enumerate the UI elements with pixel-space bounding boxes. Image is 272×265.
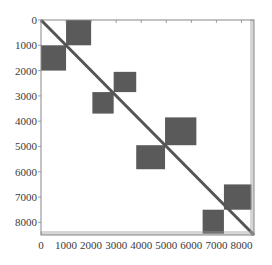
x-tick-label: 8000 bbox=[230, 239, 253, 251]
sparsity-plot: 010002000300040005000600070008000 010002… bbox=[0, 0, 272, 265]
x-tick-label: 1000 bbox=[55, 239, 78, 251]
block-5 bbox=[165, 117, 196, 145]
x-tick-label: 0 bbox=[38, 239, 44, 251]
x-tick-label: 5000 bbox=[155, 239, 178, 251]
y-tick-label: 7000 bbox=[15, 191, 38, 203]
x-tick-label: 6000 bbox=[180, 239, 203, 251]
y-tick-label: 5000 bbox=[15, 140, 38, 152]
y-tick-label: 2000 bbox=[15, 65, 38, 77]
y-tick-label: 4000 bbox=[15, 115, 38, 127]
y-tick-label: 3000 bbox=[15, 90, 38, 102]
x-tick-label: 2000 bbox=[80, 239, 103, 251]
block-7 bbox=[224, 184, 252, 209]
block-2 bbox=[41, 45, 66, 70]
x-tick-label: 4000 bbox=[130, 239, 153, 251]
y-tick-label: 8000 bbox=[15, 216, 38, 228]
block-8 bbox=[203, 210, 224, 234]
block-6 bbox=[136, 145, 165, 169]
y-tick-label: 6000 bbox=[15, 166, 38, 178]
block-4 bbox=[92, 92, 113, 114]
y-tick-label: 1000 bbox=[15, 39, 38, 51]
y-axis: 010002000300040005000600070008000 bbox=[15, 14, 41, 228]
x-tick-label: 3000 bbox=[105, 239, 128, 251]
diagonal-line bbox=[41, 20, 254, 235]
block-1 bbox=[66, 20, 91, 45]
block-3 bbox=[114, 72, 137, 92]
x-tick-label: 7000 bbox=[205, 239, 228, 251]
y-tick-label: 0 bbox=[32, 14, 38, 26]
